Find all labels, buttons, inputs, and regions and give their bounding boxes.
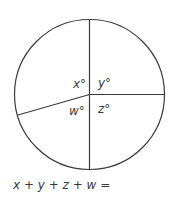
equation-text: x + y + z + w =: [13, 178, 110, 192]
angle-label-z: z°: [97, 102, 110, 116]
angle-label-y: y°: [97, 76, 111, 90]
angle-label-w: w°: [69, 104, 85, 118]
circle-diagram: x° y° w° z°: [0, 0, 173, 202]
equation-expression: x + y + z + w =: [13, 178, 110, 192]
angle-label-x: x°: [72, 77, 86, 91]
